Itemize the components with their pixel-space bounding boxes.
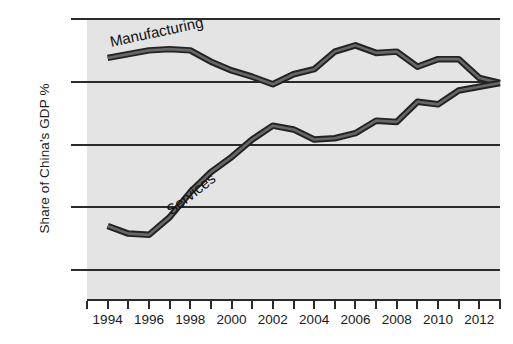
chart-container: Share of China's GDP % 30%35%40%45%50% 1…	[0, 0, 513, 344]
data-series-layer	[0, 0, 513, 344]
series-line-services	[108, 83, 500, 235]
series-line-manufacturing	[108, 45, 500, 84]
